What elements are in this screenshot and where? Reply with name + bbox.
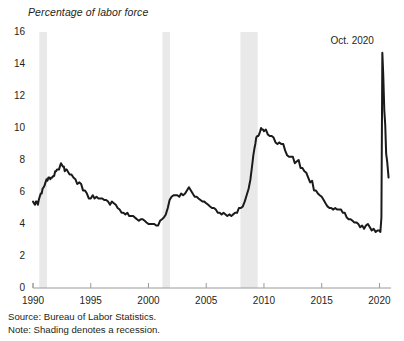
unemployment-line <box>33 53 389 232</box>
x-tick-1995: 1995 <box>71 295 111 306</box>
x-tick-2000: 2000 <box>128 295 168 306</box>
y-tick-6: 6 <box>3 186 25 197</box>
y-tick-0: 0 <box>3 282 25 293</box>
recession-shading <box>240 32 257 288</box>
x-tick-2005: 2005 <box>186 295 226 306</box>
y-tick-12: 12 <box>3 90 25 101</box>
shading-note: Note: Shading denotes a recession. <box>8 323 160 336</box>
y-tick-14: 14 <box>3 58 25 69</box>
y-tick-10: 10 <box>3 122 25 133</box>
annotation-oct-2020: Oct. 2020 <box>331 35 374 46</box>
footnotes: Source: Bureau of Labor Statistics. Note… <box>8 310 160 337</box>
unemployment-rate-chart: Percentage of labor force 0246810121416 … <box>0 0 404 341</box>
recession-shading <box>162 32 170 288</box>
y-tick-16: 16 <box>3 26 25 37</box>
x-tick-2020: 2020 <box>359 295 399 306</box>
x-tick-2015: 2015 <box>302 295 342 306</box>
x-tick-2010: 2010 <box>244 295 284 306</box>
y-tick-8: 8 <box>3 154 25 165</box>
recession-shading <box>39 32 47 288</box>
source-note: Source: Bureau of Labor Statistics. <box>8 310 160 323</box>
x-tick-1990: 1990 <box>13 295 53 306</box>
plot-area <box>0 0 404 341</box>
y-axis-title: Percentage of labor force <box>28 6 148 18</box>
y-tick-2: 2 <box>3 250 25 261</box>
y-tick-4: 4 <box>3 218 25 229</box>
